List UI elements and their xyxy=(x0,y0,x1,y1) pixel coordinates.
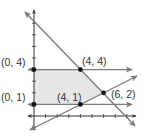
point-6-2 xyxy=(101,90,106,95)
feasible-region-graph: (0, 4) (4, 4) (0, 1) (4, 1) (6, 2) xyxy=(0,0,142,138)
point-0-1 xyxy=(32,102,37,107)
point-0-4 xyxy=(32,67,37,72)
label-4-1: (4, 1) xyxy=(57,91,82,103)
label-6-2: (6, 2) xyxy=(111,88,136,100)
label-0-1: (0, 1) xyxy=(1,91,26,103)
label-0-4: (0, 4) xyxy=(1,56,26,68)
label-4-4: (4, 4) xyxy=(82,55,107,67)
point-4-4 xyxy=(78,67,83,72)
